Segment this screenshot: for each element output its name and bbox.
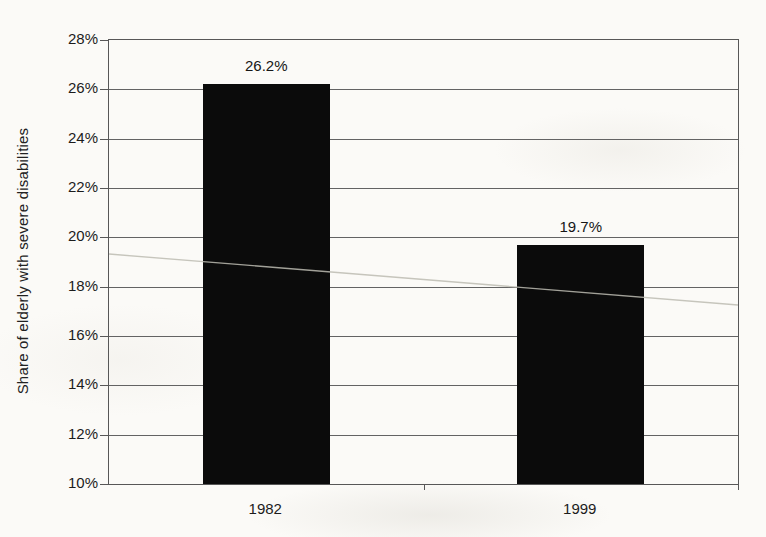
y-tick-label: 20% [36, 227, 98, 245]
y-tick-label: 12% [36, 425, 98, 443]
y-tick-label: 18% [36, 277, 98, 295]
x-axis-tick [424, 484, 425, 490]
plot-area: 26.2%19.7% [108, 39, 739, 485]
scanned-chart-page: Share of elderly with severe disabilitie… [0, 0, 766, 537]
y-axis-tick [100, 139, 109, 140]
y-axis-tick [100, 287, 109, 288]
y-axis-title: Share of elderly with severe disabilitie… [14, 128, 31, 395]
y-axis-tick [100, 435, 109, 436]
y-tick-label: 16% [36, 326, 98, 344]
y-tick-label: 26% [36, 79, 98, 97]
y-tick-label: 14% [36, 375, 98, 393]
y-tick-label: 22% [36, 178, 98, 196]
x-category-label: 1999 [563, 500, 596, 518]
y-axis-tick [100, 385, 109, 386]
x-category-label: 1982 [249, 500, 282, 518]
bar-1999 [517, 245, 644, 484]
bar-value-label: 19.7% [559, 218, 602, 235]
y-axis-tick [100, 40, 109, 41]
y-axis-tick [100, 89, 109, 90]
y-axis-tick [100, 336, 109, 337]
y-tick-label: 28% [36, 30, 98, 48]
bar-1982 [203, 84, 330, 484]
bar-value-label: 26.2% [245, 57, 288, 74]
y-axis-tick [100, 484, 109, 485]
y-tick-label: 24% [36, 129, 98, 147]
x-axis-tick [738, 484, 739, 490]
y-axis-tick [100, 237, 109, 238]
y-tick-label: 10% [36, 474, 98, 492]
y-axis-tick [100, 188, 109, 189]
